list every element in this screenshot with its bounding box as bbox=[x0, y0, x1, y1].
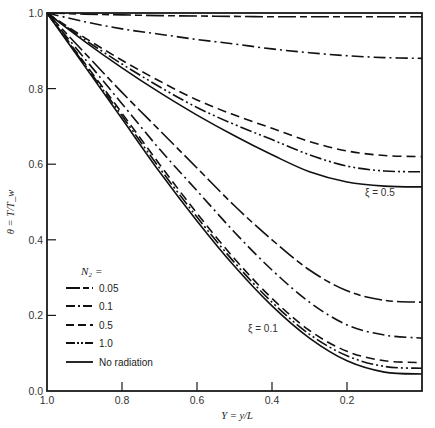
annotation-xi-0-5: ξ = 0.5 bbox=[365, 187, 395, 199]
y-axis-ticks: 0.00.20.40.60.81.0 bbox=[28, 7, 56, 397]
legend-label: 0.1 bbox=[99, 301, 113, 312]
x-tick-label: 0.2 bbox=[340, 394, 355, 406]
plot-frame bbox=[47, 13, 422, 391]
legend-label: 0.5 bbox=[99, 320, 113, 331]
legend: N₂ = 0.050.10.51.0No radiation bbox=[66, 265, 153, 368]
x-tick-label: 0.8 bbox=[115, 394, 130, 406]
temperature-profile-chart: 1.00.80.60.40.2 0.00.20.40.60.81.0 Y = y… bbox=[0, 0, 435, 428]
y-tick-label: 0.0 bbox=[28, 385, 43, 397]
y-tick-label: 0.6 bbox=[28, 158, 43, 170]
y-tick-label: 0.4 bbox=[28, 234, 43, 246]
x-axis-title: Y = y/L bbox=[221, 410, 253, 421]
y-tick-label: 0.2 bbox=[28, 309, 43, 321]
y-tick-label: 1.0 bbox=[28, 7, 43, 19]
series-line-1 bbox=[47, 13, 422, 58]
series-line-4 bbox=[47, 13, 422, 187]
y-axis-title: θ = T/T_w bbox=[5, 190, 16, 234]
annotation-xi-0-1: ξ = 0.1 bbox=[248, 323, 278, 335]
y-tick-label: 0.8 bbox=[28, 83, 43, 95]
legend-entries: 0.050.10.51.0No radiation bbox=[66, 283, 153, 368]
x-tick-label: 0.4 bbox=[265, 394, 280, 406]
legend-label: 0.05 bbox=[99, 283, 119, 294]
x-tick-label: 0.6 bbox=[190, 394, 205, 406]
x-axis-ticks: 1.00.80.60.40.2 bbox=[40, 382, 355, 406]
legend-title: N₂ = bbox=[80, 265, 102, 277]
legend-label: 1.0 bbox=[99, 338, 113, 349]
legend-label: No radiation bbox=[99, 357, 153, 368]
